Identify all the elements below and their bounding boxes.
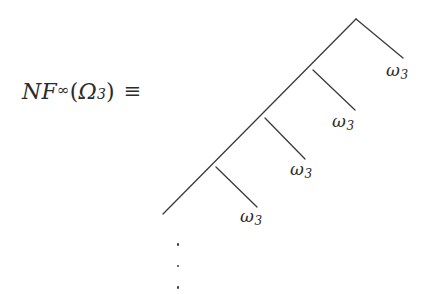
- leaf-omega-4: ω: [240, 206, 254, 226]
- leaf-label-3: ω3: [290, 159, 312, 179]
- leaf-label-2: ω3: [332, 111, 354, 131]
- vertical-ellipsis: [170, 243, 186, 289]
- ellipsis-dot: [177, 265, 180, 268]
- leaf-omega-3: ω: [290, 159, 304, 179]
- leaf-label-1: ω3: [386, 60, 408, 80]
- tree-branch-leaf-1: [356, 19, 403, 58]
- ellipsis-dot: [177, 286, 180, 289]
- leaf-omega-2: ω: [332, 111, 346, 131]
- tree-branch-leaf-4: [216, 167, 257, 207]
- tree-branch-leaf-2: [313, 70, 355, 110]
- leaf-subscript-4: 3: [254, 214, 262, 228]
- tree-diagram: [0, 0, 433, 294]
- tree-branch-leaf-3: [265, 118, 305, 159]
- tree-spine-line: [163, 19, 356, 214]
- leaf-omega-1: ω: [386, 60, 400, 80]
- leaf-subscript-1: 3: [400, 68, 408, 82]
- ellipsis-dot: [177, 243, 180, 246]
- leaf-subscript-3: 3: [304, 167, 312, 181]
- leaf-label-4: ω3: [240, 206, 262, 226]
- leaf-subscript-2: 3: [346, 119, 354, 133]
- figure-canvas: NF∞(Ω3)≡ ω3 ω3 ω3 ω3: [0, 0, 433, 294]
